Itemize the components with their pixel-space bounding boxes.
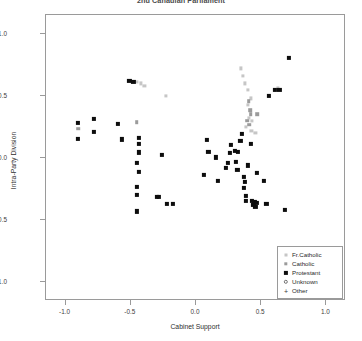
data-point	[228, 143, 232, 147]
chart-title: 2nd Canadian Parliament	[0, 0, 362, 5]
legend-item: Unknown	[280, 277, 339, 286]
legend-label: Other	[292, 286, 307, 295]
data-point	[137, 150, 141, 154]
legend-item: Protestant	[280, 268, 339, 277]
legend-symbol-icon	[280, 259, 292, 268]
x-tick-mark	[260, 300, 261, 305]
data-point	[143, 84, 146, 87]
data-point	[253, 205, 257, 209]
x-tick-label: -0.5	[110, 308, 150, 315]
data-point	[246, 89, 249, 92]
data-point	[76, 127, 80, 131]
data-point	[250, 119, 253, 122]
data-point	[240, 132, 244, 136]
data-point	[236, 149, 240, 153]
data-point	[120, 137, 124, 141]
data-point	[239, 67, 242, 70]
x-tick-mark	[195, 300, 196, 305]
data-point	[249, 112, 253, 116]
y-tick-label: 1.0	[0, 29, 7, 36]
legend-symbol-icon	[280, 250, 292, 259]
data-point	[164, 94, 167, 97]
y-tick-label: -0.5	[0, 216, 7, 223]
data-point	[238, 138, 242, 142]
data-point	[255, 201, 259, 205]
data-point	[228, 151, 232, 155]
legend-label: Protestant	[292, 268, 320, 277]
legend-label: Catholic	[292, 259, 314, 268]
y-axis-label: Intra-Party Division	[10, 81, 17, 241]
data-point	[135, 185, 139, 189]
legend: Fr.CatholicCatholicProtestantUnknown+Oth…	[277, 246, 343, 299]
data-point	[92, 117, 96, 121]
x-tick-label: 0.0	[175, 308, 215, 315]
data-point	[283, 208, 287, 212]
data-point	[249, 142, 253, 146]
x-tick-mark	[130, 300, 131, 305]
legend-symbol-icon	[280, 268, 292, 277]
legend-item: Catholic	[280, 259, 339, 268]
data-point	[226, 161, 230, 165]
data-point	[92, 130, 96, 134]
y-tick-label: 0.0	[0, 154, 7, 161]
data-point	[213, 155, 217, 159]
data-point	[248, 123, 252, 127]
data-point	[170, 202, 174, 206]
data-point	[157, 195, 161, 199]
y-tick-label: 0.5	[0, 91, 7, 98]
data-point	[255, 171, 259, 175]
data-point	[254, 131, 257, 134]
data-point	[139, 82, 142, 85]
data-point	[247, 100, 251, 104]
data-point	[135, 193, 139, 197]
data-point	[116, 122, 120, 126]
x-tick-mark	[325, 300, 326, 305]
legend-symbol-icon	[280, 277, 292, 286]
data-point	[205, 138, 209, 142]
data-point	[135, 80, 138, 83]
data-point	[242, 186, 246, 190]
data-point	[242, 180, 246, 184]
data-point	[160, 153, 164, 157]
data-point	[243, 82, 246, 85]
data-point	[250, 130, 253, 133]
x-tick-mark	[65, 300, 66, 305]
data-point	[248, 108, 252, 112]
data-point	[137, 142, 141, 146]
data-point	[76, 120, 80, 124]
data-point	[273, 88, 277, 92]
data-point	[224, 166, 228, 170]
data-point	[242, 175, 246, 179]
data-point	[287, 56, 291, 60]
data-point	[137, 170, 141, 174]
data-point	[267, 94, 271, 98]
data-point	[234, 160, 238, 164]
legend-symbol-icon: +	[280, 286, 292, 295]
data-point	[135, 209, 139, 213]
legend-item: Fr.Catholic	[280, 250, 339, 259]
data-point	[206, 150, 210, 154]
legend-item: +Other	[280, 286, 339, 295]
data-point	[277, 88, 281, 92]
data-point	[244, 199, 248, 203]
data-point	[246, 103, 249, 106]
x-tick-label: -1.0	[45, 308, 85, 315]
x-axis-label: Cabinet Support	[45, 323, 345, 330]
y-tick-label: -1.0	[0, 278, 7, 285]
legend-label: Unknown	[292, 277, 318, 286]
x-tick-label: 0.5	[240, 308, 280, 315]
data-point	[243, 194, 247, 198]
data-point	[241, 74, 244, 77]
data-point	[245, 163, 249, 167]
data-point	[137, 136, 141, 140]
data-point	[256, 113, 260, 117]
data-point	[202, 173, 206, 177]
legend-label: Fr.Catholic	[292, 250, 322, 259]
data-point	[264, 202, 268, 206]
data-point	[235, 168, 239, 172]
data-point	[135, 120, 139, 124]
data-point	[165, 202, 169, 206]
data-point	[131, 80, 135, 84]
x-tick-label: 1.0	[305, 308, 345, 315]
data-point	[262, 179, 266, 183]
